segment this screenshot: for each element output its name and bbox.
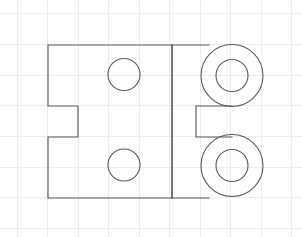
lower-through-hole — [108, 149, 140, 181]
lower-boss-inner-circle — [216, 150, 248, 182]
grid-vertical-lines — [17, 0, 292, 237]
front-view-plate — [48, 45, 172, 198]
technical-drawing-canvas — [0, 0, 302, 237]
graph-paper-grid — [0, 0, 302, 237]
sketch-svg — [0, 0, 302, 237]
side-view-notch — [196, 106, 232, 137]
lower-boss-outer-circle — [201, 135, 263, 197]
side-view-bosses — [201, 45, 263, 197]
grid-horizontal-lines — [0, 14, 302, 229]
side-view-edges — [172, 45, 209, 198]
